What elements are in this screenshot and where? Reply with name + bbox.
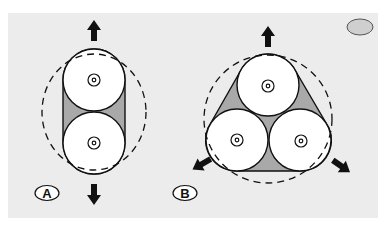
panel-b-hub-right-icon <box>295 135 307 147</box>
arrow-up-icon <box>261 26 275 47</box>
panel-a-label: A <box>42 186 52 201</box>
panel-b-hub-top-icon <box>262 80 274 92</box>
roller-diagram: A B <box>0 0 388 225</box>
panel-a-hub-bottom-icon <box>88 137 100 149</box>
arrow-down-right-icon <box>329 155 354 179</box>
panel-a-hub-top-icon <box>88 74 100 86</box>
panel-a: A <box>35 20 146 205</box>
panel-b-label: B <box>180 186 189 201</box>
panel-b-hub-left-icon <box>231 134 243 146</box>
arrow-down-icon <box>87 184 101 205</box>
arrow-up-icon <box>87 20 101 41</box>
corner-marker-ellipse <box>347 19 373 35</box>
panel-b: B <box>173 26 354 201</box>
